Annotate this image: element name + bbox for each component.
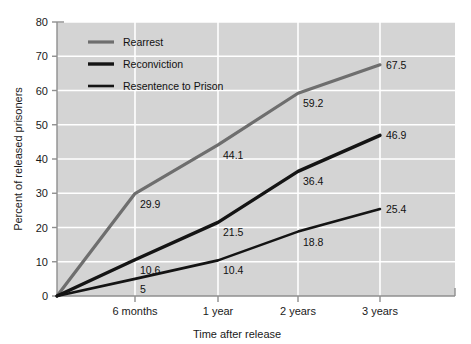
point-label-s2-p2: 18.8 <box>303 236 324 248</box>
point-label-s0-p3: 67.5 <box>386 59 407 71</box>
chart-canvas: 01020304050607080 6 months1 year2 years3… <box>0 0 471 344</box>
y-tick-label-50: 50 <box>36 119 48 131</box>
x-tick-label-1: 1 year <box>203 305 234 317</box>
point-label-s2-p0: 5 <box>140 283 146 295</box>
x-tick-label-0: 6 months <box>112 305 158 317</box>
point-label-s0-p1: 44.1 <box>223 149 244 161</box>
y-axis-ticks: 01020304050607080 <box>36 16 57 302</box>
point-label-s1-p2: 36.4 <box>303 175 324 187</box>
y-tick-label-0: 0 <box>42 290 48 302</box>
x-tick-label-2: 2 years <box>280 305 317 317</box>
y-tick-label-60: 60 <box>36 85 48 97</box>
point-label-s1-p3: 46.9 <box>386 129 407 141</box>
legend-label-2: Resentence to Prison <box>123 80 224 92</box>
y-tick-label-10: 10 <box>36 256 48 268</box>
point-label-s2-p3: 25.4 <box>386 203 407 215</box>
legend-label-1: Reconviction <box>123 58 183 70</box>
x-tick-label-3: 3 years <box>362 305 399 317</box>
recidivism-line-chart: 01020304050607080 6 months1 year2 years3… <box>0 0 471 344</box>
y-tick-label-70: 70 <box>36 50 48 62</box>
point-label-s0-p0: 29.9 <box>140 198 161 210</box>
x-axis-ticks: 6 months1 year2 years3 years <box>112 296 398 317</box>
legend-label-0: Rearrest <box>123 36 163 48</box>
point-label-s0-p2: 59.2 <box>303 97 324 109</box>
y-tick-label-80: 80 <box>36 16 48 28</box>
y-tick-label-40: 40 <box>36 153 48 165</box>
x-axis-title: Time after release <box>193 328 281 340</box>
y-axis-title: Percent of released prisoners <box>12 87 24 231</box>
y-tick-label-20: 20 <box>36 222 48 234</box>
point-label-s2-p1: 10.4 <box>223 264 244 276</box>
point-label-s1-p0: 10.6 <box>140 264 161 276</box>
y-tick-label-30: 30 <box>36 187 48 199</box>
point-label-s1-p1: 21.5 <box>223 226 244 238</box>
